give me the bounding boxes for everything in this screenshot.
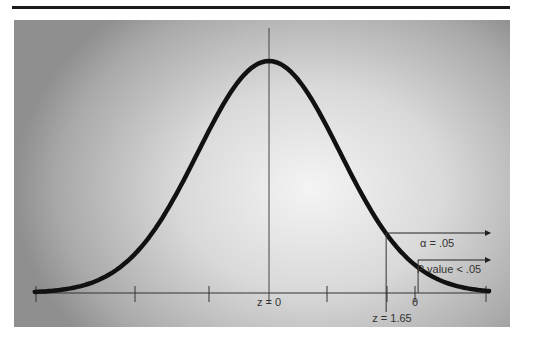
pvalue-label: P value < .05: [417, 263, 481, 275]
theta-label: θ: [412, 296, 418, 308]
critical-label: z = 1.65: [372, 312, 411, 324]
normal-curve-diagram: α = .05 P value < .05 z = 0 θ z = 1.65: [0, 0, 556, 341]
alpha-label: α = .05: [420, 237, 454, 249]
center-label: z = 0: [257, 296, 281, 308]
normal-curve: [35, 61, 489, 292]
